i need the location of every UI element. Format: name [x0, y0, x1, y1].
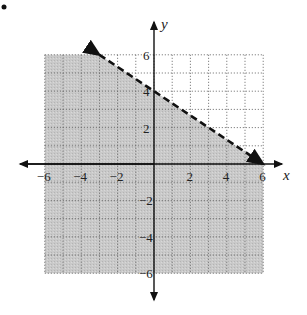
svg-text:2: 2 — [143, 121, 150, 136]
svg-text:−6: −6 — [37, 169, 51, 184]
svg-text:−6: −6 — [139, 266, 153, 281]
svg-text:−2: −2 — [110, 169, 124, 184]
svg-text:−2: −2 — [139, 193, 153, 208]
svg-text:−4: −4 — [139, 230, 153, 245]
svg-text:2: 2 — [186, 169, 193, 184]
inequality-graph: −6−4−2246642−2−4−6 x y — [0, 0, 307, 315]
y-axis-label: y — [159, 16, 168, 32]
svg-text:6: 6 — [143, 48, 150, 63]
x-axis-label: x — [282, 167, 290, 183]
svg-text:4: 4 — [223, 169, 230, 184]
svg-text:4: 4 — [143, 84, 150, 99]
svg-text:−4: −4 — [73, 169, 87, 184]
problem-bullet — [2, 5, 7, 10]
svg-text:6: 6 — [259, 169, 266, 184]
